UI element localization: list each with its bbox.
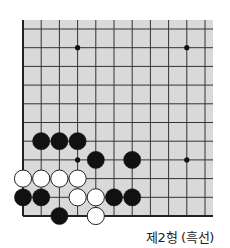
star-point-icon (184, 157, 189, 162)
black-stone (87, 151, 104, 168)
board-background (23, 20, 213, 216)
black-stone (51, 133, 68, 150)
star-point-icon (75, 157, 80, 162)
black-stone (105, 189, 122, 206)
white-stone (33, 170, 50, 187)
star-point-icon (75, 45, 80, 50)
white-stone (14, 170, 31, 187)
white-stone (69, 170, 86, 187)
star-point-icon (184, 45, 189, 50)
black-stone (51, 207, 68, 224)
white-stone (69, 189, 86, 206)
go-board (0, 0, 230, 248)
black-stone (33, 189, 50, 206)
black-stone (124, 151, 141, 168)
black-stone (14, 189, 31, 206)
black-stone (33, 133, 50, 150)
diagram-caption: 제2형 (흑선) (146, 227, 214, 246)
white-stone (87, 207, 104, 224)
white-stone (87, 189, 104, 206)
black-stone (69, 133, 86, 150)
black-stone (124, 189, 141, 206)
white-stone (51, 170, 68, 187)
